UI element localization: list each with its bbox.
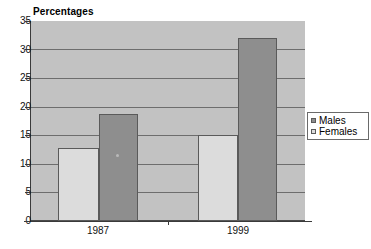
y-tick-mark-10 — [25, 164, 30, 165]
bar-1999-males — [198, 135, 238, 221]
y-tick-mark-15 — [25, 135, 30, 136]
y-tick-mark-25 — [25, 78, 30, 79]
plot-area — [31, 21, 305, 221]
legend-item-males: Males — [311, 115, 366, 126]
legend-swatch-females-icon — [311, 129, 316, 134]
x-tick-label-1987: 1987 — [68, 226, 128, 236]
scan-artifact-speck — [116, 154, 119, 157]
bar-1987-females — [99, 114, 138, 221]
legend-label-males: Males — [319, 116, 346, 126]
legend-label-females: Females — [319, 127, 357, 137]
bar-chart-figure: Percentages 35 30 25 20 15 10 5 0 — [0, 0, 371, 249]
y-tick-mark-0 — [25, 221, 30, 222]
legend-item-females: Females — [311, 126, 366, 137]
legend-swatch-males-icon — [311, 118, 316, 123]
y-tick-label-30: 30 — [7, 45, 31, 55]
y-tick-mark-20 — [25, 107, 30, 108]
x-tick-mark-mid — [168, 221, 169, 225]
chart-legend: Males Females — [307, 112, 369, 140]
bar-1999-females — [238, 38, 277, 221]
y-tick-mark-5 — [25, 192, 30, 193]
chart-title: Percentages — [33, 6, 94, 17]
x-tick-label-1999: 1999 — [208, 226, 268, 236]
y-tick-mark-35 — [25, 21, 30, 22]
y-tick-mark-30 — [25, 49, 30, 50]
bar-1987-males — [58, 148, 99, 221]
y-axis: 35 30 25 20 15 10 5 0 — [0, 0, 31, 249]
